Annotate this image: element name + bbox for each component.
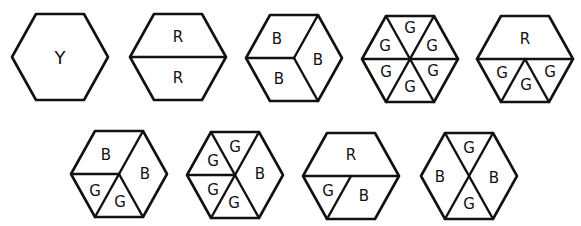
region-label: G — [496, 64, 508, 82]
region-label: B — [274, 70, 284, 88]
hexagon-diagram: YRRBBBGGGGGGRGGGBBGGGGBGGRGBGBBG — [0, 0, 581, 226]
region-label: G — [463, 195, 475, 213]
region-label: B — [101, 146, 111, 164]
hexagon-1: Y — [12, 14, 108, 100]
hexagon-2: RR — [130, 14, 226, 100]
region-label: G — [207, 181, 219, 199]
hexagon-row-1: YRRBBBGGGGGGRGGG — [12, 14, 573, 102]
region-label: B — [359, 187, 369, 205]
region-label: G — [379, 37, 391, 55]
region-label: B — [255, 165, 265, 183]
hexagon-3: BBB — [246, 15, 342, 101]
region-label: G — [544, 63, 556, 81]
region-label: G — [207, 152, 219, 170]
region-label: G — [380, 63, 392, 81]
region-label: R — [346, 146, 356, 164]
region-label: G — [228, 194, 240, 212]
hexagon-4: GGGGGG — [362, 16, 458, 102]
region-label: G — [322, 182, 334, 200]
hexagon-6: BBGG — [71, 131, 167, 217]
region-label: G — [89, 182, 101, 200]
region-label: G — [404, 78, 416, 96]
region-label: G — [426, 37, 438, 55]
hexagon-5: RGGG — [477, 16, 573, 102]
region-label: G — [427, 62, 439, 80]
region-label: R — [520, 30, 530, 48]
hexagon-7: GGBGG — [187, 132, 283, 218]
hexagon-8: RGB — [303, 133, 399, 219]
hexagon-9: GBBG — [421, 133, 517, 219]
region-label: G — [404, 19, 416, 37]
region-label: B — [435, 168, 445, 186]
region-label: G — [463, 139, 475, 157]
region-label: Y — [54, 47, 67, 68]
region-label: R — [173, 28, 183, 46]
region-label: G — [114, 193, 126, 211]
region-label: R — [173, 69, 183, 87]
region-label: B — [140, 165, 150, 183]
hexagon-row-2: BBGGGGBGGRGBGBBG — [71, 131, 517, 219]
region-label: G — [229, 138, 241, 156]
region-label: B — [489, 169, 499, 187]
region-label: B — [272, 30, 282, 48]
region-label: G — [520, 76, 532, 94]
region-label: B — [313, 51, 323, 69]
